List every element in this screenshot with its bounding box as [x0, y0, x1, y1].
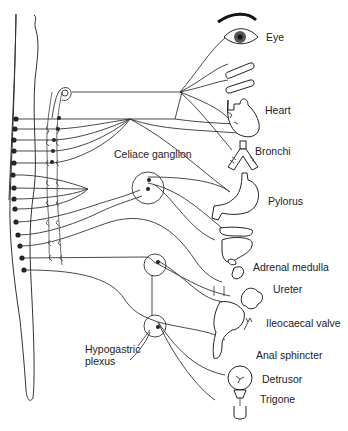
label-hypogastric-line1: Hypogastric [85, 343, 140, 355]
label-heart: Heart [265, 104, 291, 116]
pancreas-organ [220, 227, 253, 265]
sympathetic-nervous-system-diagram [0, 0, 348, 431]
label-adrenal-medulla: Adrenal medulla [253, 261, 329, 273]
label-celiac-ganglion: Celiace ganglion [114, 148, 192, 160]
label-bronchi: Bronchi [255, 145, 291, 157]
label-ileocaecal-valve: Ileocaecal valve [266, 317, 341, 329]
stomach-organ [212, 173, 259, 220]
label-eye: Eye [266, 31, 284, 43]
adrenal-organ [232, 267, 244, 279]
sympathetic-chain [46, 88, 71, 265]
label-pylorus: Pylorus [268, 195, 303, 207]
intestine-organ [213, 302, 252, 359]
label-detrusor: Detrusor [262, 373, 302, 385]
label-trigone: Trigone [260, 393, 295, 405]
heart-organ [227, 99, 259, 137]
label-hypogastric-line2: plexus [85, 355, 140, 367]
salivary-glands [226, 63, 254, 93]
bronchi-organ [228, 141, 258, 170]
bladder-organ [228, 366, 252, 419]
label-ureter: Ureter [273, 283, 302, 295]
label-hypogastric-plexus: Hypogastric plexus [85, 343, 140, 367]
spinal-cord-dots [10, 116, 61, 273]
mesenteric-ganglion [144, 254, 166, 276]
preganglionic-fibers [13, 92, 180, 322]
label-anal-sphincter: Anal sphincter [256, 349, 323, 361]
